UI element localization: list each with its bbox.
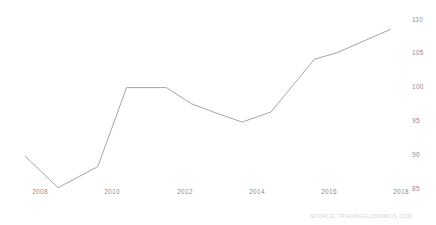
y-axis-tick-85: 85 [412, 185, 420, 192]
x-axis-tick-2014: 2014 [249, 188, 265, 195]
y-axis-tick-110: 110 [412, 16, 423, 23]
x-axis-tick-2008: 2008 [32, 188, 48, 195]
y-axis-tick-95: 95 [412, 117, 420, 124]
y-axis-tick-90: 90 [412, 151, 420, 158]
chart-container: 110 105 100 95 90 85 2008 2010 2012 2014… [0, 0, 436, 225]
x-axis-tick-2010: 2010 [104, 188, 120, 195]
source-watermark: SOURCE: TRADINGECONOMICS.COM [310, 213, 412, 219]
x-axis-tick-2016: 2016 [321, 188, 337, 195]
series-line-index [26, 29, 391, 187]
x-axis-tick-2018: 2018 [393, 188, 409, 195]
y-axis-tick-105: 105 [412, 49, 424, 56]
x-axis-tick-2012: 2012 [177, 188, 193, 195]
y-axis-tick-100: 100 [412, 83, 424, 90]
line-chart-plot [0, 0, 436, 225]
